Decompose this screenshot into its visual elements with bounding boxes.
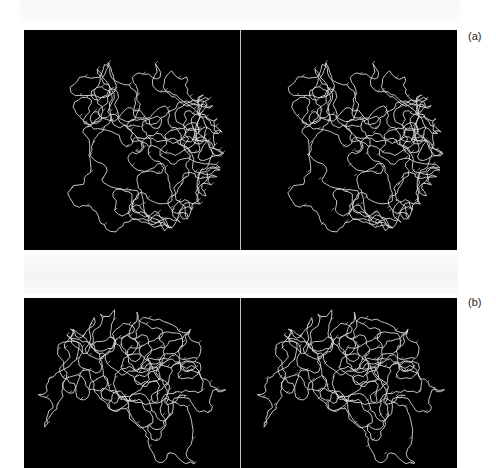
backbone-trace-b-right — [241, 298, 457, 468]
stereo-view-left-b — [24, 298, 240, 468]
stereo-view-left-a — [24, 30, 240, 250]
figure-panel-a — [24, 30, 457, 250]
figure-panel-b — [24, 298, 457, 468]
stereo-view-right-b — [241, 298, 457, 468]
backbone-trace-a-right — [241, 30, 457, 250]
panel-label-b: (b) — [468, 296, 481, 308]
page-bleed-through — [20, 0, 460, 26]
stereo-view-right-a — [241, 30, 457, 250]
backbone-trace-b-left — [24, 298, 240, 468]
panel-label-a: (a) — [468, 30, 481, 42]
backbone-trace-a-left — [24, 30, 240, 250]
page-bleed-through-middle — [24, 254, 458, 294]
